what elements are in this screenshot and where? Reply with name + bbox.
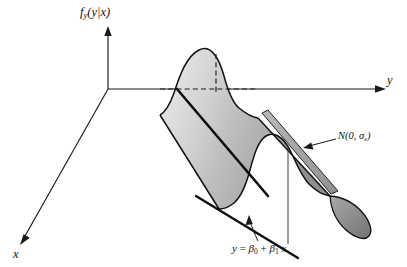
density-axis-label: fy(y|x) (80, 6, 110, 20)
surface-right-edge (258, 118, 330, 196)
normal-ridge-surface-group (160, 49, 371, 258)
normal-callout-leader (309, 139, 336, 146)
normal-distribution-label: N(0, σε) (338, 131, 371, 143)
regression-plus: + (261, 242, 267, 254)
regression-variable: x (282, 242, 287, 254)
normal-label-prefix: N(0, (338, 130, 359, 141)
regression-beta0-sub: 0 (254, 247, 258, 256)
normal-label-suffix: ) (367, 130, 371, 141)
surface-thickness-strip (262, 110, 338, 194)
x-axis-label: x (13, 248, 19, 261)
regression-callout-arrowhead (245, 215, 252, 225)
regression-lhs: y (232, 242, 237, 254)
density-axis-label-rest: (y|x) (87, 5, 110, 19)
regression-equation-label: y = β0 + β1 x (232, 243, 286, 256)
y-axis-label: y (387, 74, 393, 87)
regression-normal-distribution-figure: fy(y|x) y x N(0, σε) y = β0 + β1 x (0, 0, 407, 267)
x-axis-line (25, 89, 108, 236)
x-axis-arrowhead (20, 234, 30, 245)
density-axis-arrowhead (104, 26, 111, 36)
y-axis-arrowhead (375, 85, 386, 92)
surface-far-tail (330, 196, 371, 238)
regression-equals: = (240, 242, 246, 254)
regression-beta1-sub: 1 (275, 247, 279, 256)
normal-callout-arrowhead (303, 143, 314, 150)
